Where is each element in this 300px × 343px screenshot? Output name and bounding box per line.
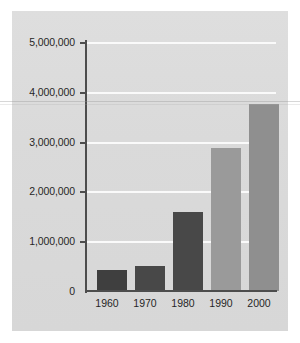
y-tick-2000000 (80, 191, 86, 193)
scan-artifact-line (0, 101, 300, 102)
y-axis-label-0: 0 (0, 285, 75, 297)
bar-1990[interactable] (211, 148, 241, 291)
y-tick-5000000 (80, 42, 86, 44)
y-axis-label-2000000: 2,000,000 (0, 185, 75, 197)
y-axis-label-4000000: 4,000,000 (0, 86, 75, 98)
bar-1980[interactable] (173, 212, 203, 291)
y-axis-label-5000000: 5,000,000 (0, 36, 75, 48)
x-axis-label-2000: 2000 (229, 297, 289, 309)
y-axis-line (85, 40, 87, 293)
bar-series (86, 42, 276, 291)
scan-artifact-line-secondary (0, 104, 300, 105)
bar-1970[interactable] (135, 266, 165, 291)
y-tick-3000000 (80, 142, 86, 144)
chart-root: 5,000,000 4,000,000 3,000,000 2,000,000 … (0, 0, 300, 343)
x-axis-line (85, 290, 277, 292)
bar-1960[interactable] (97, 270, 127, 291)
bar-2000[interactable] (249, 104, 279, 291)
y-tick-1000000 (80, 241, 86, 243)
y-tick-4000000 (80, 92, 86, 94)
y-axis-label-3000000: 3,000,000 (0, 136, 75, 148)
y-axis-label-1000000: 1,000,000 (0, 235, 75, 247)
